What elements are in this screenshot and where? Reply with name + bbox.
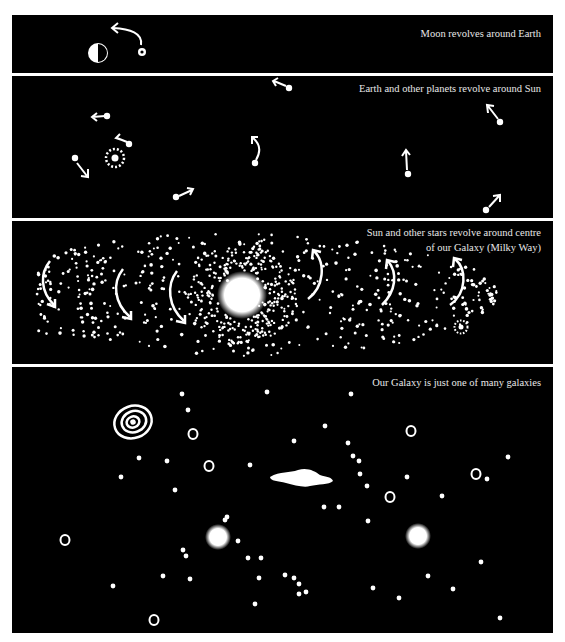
planet-arrow-icon <box>92 113 109 121</box>
elliptical-galaxy-icon <box>405 523 431 549</box>
moon-icon <box>138 48 146 56</box>
planet-arrow-icon <box>174 188 193 199</box>
planet-arrow-icon <box>273 78 291 90</box>
distant-galaxies <box>111 390 511 621</box>
panel-moon-earth: Moon revolves around Earth <box>12 15 553 73</box>
planet-arrow-icon <box>402 150 410 176</box>
sun-position-icon <box>455 321 468 334</box>
panel-stars-galaxy: Sun and other stars revolve around centr… <box>12 221 553 364</box>
rotation-arrow-icon <box>382 260 395 305</box>
planet-arrow-icon <box>116 134 131 146</box>
galaxies-illustration <box>12 367 553 633</box>
planet-arrow-icon <box>487 105 502 124</box>
edge-on-galaxy-icon <box>270 469 333 487</box>
earth-icon <box>88 43 108 63</box>
planet-arrow-icon <box>252 137 259 165</box>
elliptical-galaxy-icon <box>205 524 231 550</box>
rotation-arrow-icon <box>308 250 322 299</box>
planet-arrow-icon <box>73 156 88 177</box>
solar-system-illustration <box>12 76 553 218</box>
orbit-arrow-icon <box>113 28 141 45</box>
moon-earth-illustration <box>12 15 553 73</box>
milky-way-illustration <box>12 221 553 364</box>
rotation-arrow-icon <box>116 269 131 319</box>
rotation-arrow-icon <box>170 271 185 323</box>
spiral-galaxy-icon <box>110 400 157 443</box>
sun-icon <box>106 149 124 167</box>
panel-planets-sun: Earth and other planets revolve around S… <box>12 76 553 218</box>
planet-arrow-icon <box>484 195 500 212</box>
galactic-core <box>217 271 267 319</box>
panel-galaxies: Our Galaxy is just one of many galaxies <box>12 367 553 633</box>
